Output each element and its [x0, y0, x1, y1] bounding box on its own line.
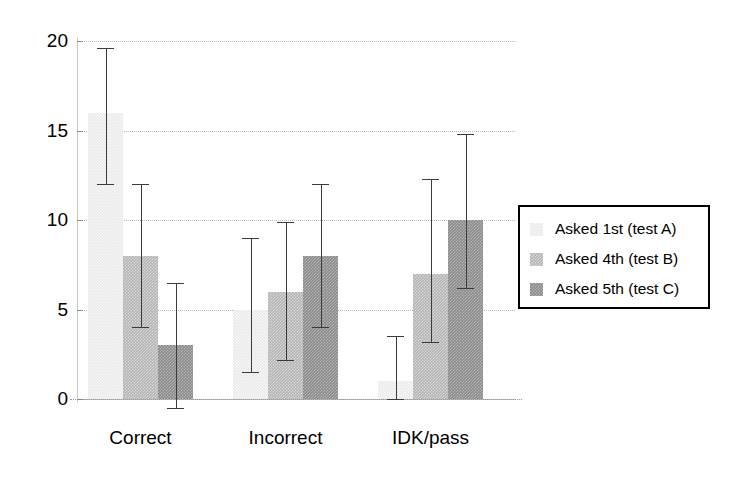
error-bar-2-1 — [431, 179, 432, 342]
error-cap-upper-0-2 — [167, 283, 184, 284]
error-cap-upper-1-2 — [312, 184, 329, 185]
chart-legend: Asked 1st (test A) Asked 4th (test B) As… — [518, 205, 710, 309]
error-cap-lower-1-1 — [277, 360, 294, 361]
y-tick-label-15: 15 — [28, 121, 68, 140]
error-cap-lower-2-0 — [387, 399, 404, 400]
y-tick-label-5: 5 — [28, 300, 68, 319]
error-cap-lower-1-2 — [312, 327, 329, 328]
category-label-0: Correct — [71, 428, 211, 447]
error-bar-1-1 — [286, 222, 287, 360]
y-tick-label-10: 10 — [28, 210, 68, 229]
y-tick-label-20: 20 — [28, 31, 68, 50]
error-bar-0-2 — [176, 283, 177, 408]
error-cap-lower-0-2 — [167, 408, 184, 409]
gridline-20 — [78, 41, 515, 42]
error-cap-lower-0-1 — [132, 327, 149, 328]
category-label-2: IDK/pass — [361, 428, 501, 447]
plot-area — [78, 41, 515, 399]
legend-label-1: Asked 4th (test B) — [555, 251, 678, 267]
legend-label-2: Asked 5th (test C) — [555, 281, 679, 297]
error-cap-upper-1-1 — [277, 222, 294, 223]
error-bar-2-2 — [466, 134, 467, 288]
error-cap-upper-0-1 — [132, 184, 149, 185]
category-label-1: Incorrect — [216, 428, 356, 447]
legend-swatch-icon-1 — [530, 253, 543, 266]
error-cap-lower-2-1 — [422, 342, 439, 343]
gridline-0 — [78, 399, 515, 400]
error-cap-upper-2-2 — [457, 134, 474, 135]
error-bar-0-0 — [106, 48, 107, 184]
y-tickmark-5 — [77, 310, 83, 311]
y-tickmark-15 — [77, 131, 83, 132]
error-bar-1-0 — [251, 238, 252, 372]
error-cap-upper-2-0 — [387, 336, 404, 337]
error-cap-upper-0-0 — [97, 48, 114, 49]
error-bar-1-2 — [321, 184, 322, 327]
legend-item-0: Asked 1st (test A) — [530, 217, 676, 241]
error-cap-lower-1-0 — [242, 372, 259, 373]
legend-item-1: Asked 4th (test B) — [530, 247, 678, 271]
legend-swatch-icon-2 — [530, 283, 543, 296]
y-tickmark-20 — [77, 41, 83, 42]
error-cap-upper-1-0 — [242, 238, 259, 239]
bar-chart: 05101520 CorrectIncorrectIDK/pass Asked … — [0, 0, 736, 484]
legend-item-2: Asked 5th (test C) — [530, 277, 679, 301]
legend-swatch-icon-0 — [530, 223, 543, 236]
error-cap-lower-0-0 — [97, 184, 114, 185]
gridline-15 — [78, 131, 515, 132]
error-cap-lower-2-2 — [457, 288, 474, 289]
y-tick-label-0: 0 — [28, 389, 68, 408]
error-bar-2-0 — [396, 336, 397, 399]
y-tickmark-0 — [77, 399, 83, 400]
y-tickmark-10 — [77, 220, 83, 221]
y-axis-ticks: 05101520 — [22, 41, 68, 399]
legend-label-0: Asked 1st (test A) — [555, 221, 676, 237]
error-bar-0-1 — [141, 184, 142, 327]
error-cap-upper-2-1 — [422, 179, 439, 180]
